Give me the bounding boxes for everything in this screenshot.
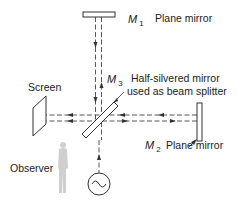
screen-label: Screen bbox=[28, 82, 61, 93]
observer-figure bbox=[58, 142, 68, 193]
m1-description: Plane mirror bbox=[155, 13, 212, 24]
interferometer-diagram bbox=[0, 0, 238, 209]
horizontal-beams bbox=[42, 115, 197, 121]
m2-description: Plane mirror bbox=[166, 140, 223, 151]
m3-symbol: M3 bbox=[107, 74, 123, 85]
m2-symbol: M2 bbox=[145, 140, 161, 151]
mirror-m2 bbox=[197, 103, 202, 141]
ac-source-icon bbox=[88, 173, 110, 195]
m3-description-line1: Half-silvered mirror bbox=[131, 73, 220, 84]
horizontal-arrows bbox=[67, 113, 176, 123]
observer-label: Observer bbox=[10, 163, 53, 174]
vertical-beams bbox=[96, 17, 102, 173]
m3-description-line2: used as beam splitter bbox=[127, 86, 227, 97]
m1-symbol: M1 bbox=[128, 14, 144, 25]
screen bbox=[33, 96, 46, 136]
vertical-arrows bbox=[94, 42, 104, 160]
mirror-m1 bbox=[83, 12, 115, 17]
beam-splitter-m3 bbox=[82, 102, 118, 138]
